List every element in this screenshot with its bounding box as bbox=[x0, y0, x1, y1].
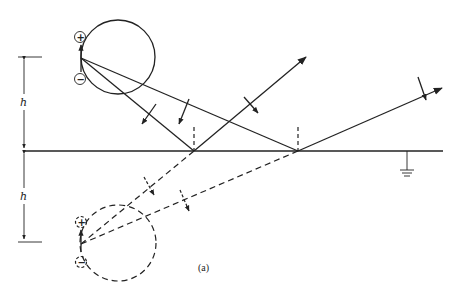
e-field-arrow-image-2 bbox=[180, 190, 189, 211]
e-field-arrow-direct-1 bbox=[142, 104, 156, 124]
minus-sign: − bbox=[77, 74, 85, 85]
image-theory-diagram: h h + − + − bbox=[0, 0, 460, 300]
image-pattern-circle bbox=[80, 205, 156, 281]
diagram-svg: h h + − + − bbox=[0, 0, 460, 300]
real-pattern-circle bbox=[81, 20, 155, 94]
ground-icon bbox=[400, 151, 414, 176]
image-ray-2 bbox=[81, 151, 298, 244]
image-ray-1 bbox=[81, 151, 194, 244]
reflected-ray-2 bbox=[298, 88, 442, 151]
direct-ray-1 bbox=[81, 58, 194, 151]
real-dipole: + − bbox=[75, 32, 86, 86]
direct-ray-2 bbox=[81, 58, 298, 151]
image-minus-sign: − bbox=[78, 257, 86, 268]
height-label-upper: h bbox=[20, 96, 27, 109]
height-label-lower: h bbox=[20, 190, 27, 203]
height-dimension bbox=[18, 57, 42, 242]
image-plus-sign: + bbox=[78, 217, 86, 228]
e-field-arrow-image-1 bbox=[144, 177, 154, 195]
plus-sign: + bbox=[77, 32, 85, 43]
figure-caption: (a) bbox=[198, 262, 209, 274]
